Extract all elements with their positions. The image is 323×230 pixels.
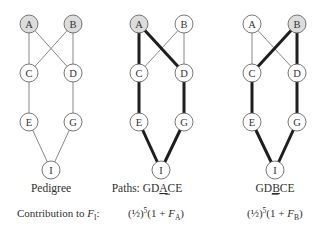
node-G: G xyxy=(288,113,306,131)
node-label: C xyxy=(25,68,32,79)
node-label: D xyxy=(180,68,188,79)
node-label: D xyxy=(293,68,301,79)
panel-label: GDBCE xyxy=(256,182,295,194)
node-C: C xyxy=(130,64,148,82)
contribution-label: Contribution to FI: xyxy=(17,207,100,222)
node-B: B xyxy=(288,15,306,33)
node-C: C xyxy=(20,64,38,82)
node-A: A xyxy=(130,15,148,33)
node-label: I xyxy=(273,165,277,176)
node-A: A xyxy=(20,15,38,33)
node-C: C xyxy=(243,64,261,82)
inbreeding-path-diagram: ABCDEGIPedigreeABCDEGIPaths: GDACEABCDEG… xyxy=(0,0,323,230)
node-E: E xyxy=(130,113,148,131)
node-label: B xyxy=(69,19,76,30)
node-D: D xyxy=(64,64,82,82)
node-label: I xyxy=(159,165,163,176)
diagram-panels: ABCDEGIPedigreeABCDEGIPaths: GDACEABCDEG… xyxy=(20,15,306,195)
node-I: I xyxy=(266,161,284,179)
node-label: D xyxy=(69,68,77,79)
node-label: C xyxy=(248,68,255,79)
contribution-formula-A: (½)5(1 + FA) xyxy=(128,206,184,222)
node-I: I xyxy=(152,161,170,179)
formulas: (½)5(1 + FA)(½)5(1 + FB) xyxy=(128,206,303,222)
panel-path-gdbce: ABCDEGIGDBCE xyxy=(243,15,306,194)
node-G: G xyxy=(64,113,82,131)
node-G: G xyxy=(175,113,193,131)
node-B: B xyxy=(64,15,82,33)
node-label: E xyxy=(26,117,32,128)
panel-path-gdace: ABCDEGIPaths: GDACE xyxy=(112,15,193,194)
node-label: G xyxy=(69,117,77,128)
node-label: I xyxy=(49,165,53,176)
panel-label: Paths: GDACE xyxy=(112,182,183,194)
node-label: B xyxy=(293,19,300,30)
node-D: D xyxy=(175,64,193,82)
node-label: A xyxy=(248,19,256,30)
node-label: E xyxy=(136,117,142,128)
node-D: D xyxy=(288,64,306,82)
node-label: G xyxy=(293,117,301,128)
node-E: E xyxy=(243,113,261,131)
node-label: A xyxy=(25,19,33,30)
node-A: A xyxy=(243,15,261,33)
contribution-row: Contribution to FI: (½)5(1 + FA)(½)5(1 +… xyxy=(17,206,303,222)
node-E: E xyxy=(20,113,38,131)
node-B: B xyxy=(175,15,193,33)
panel-label: Pedigree xyxy=(31,182,71,195)
node-label: B xyxy=(180,19,187,30)
node-label: G xyxy=(180,117,188,128)
node-label: E xyxy=(249,117,255,128)
contribution-formula-B: (½)5(1 + FB) xyxy=(247,206,303,222)
panel-pedigree: ABCDEGIPedigree xyxy=(20,15,82,195)
node-label: C xyxy=(135,68,142,79)
node-label: A xyxy=(135,19,143,30)
node-I: I xyxy=(42,161,60,179)
